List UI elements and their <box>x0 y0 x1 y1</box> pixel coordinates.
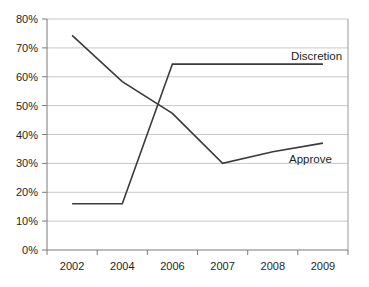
y-axis-label-40: 40% <box>16 129 38 141</box>
x-axis-label-2007: 2007 <box>210 260 234 272</box>
x-axis-label-2004: 2004 <box>110 260 134 272</box>
y-axis-label-50: 50% <box>16 100 38 112</box>
y-axis-label-30: 30% <box>16 157 38 169</box>
x-axis-label-2002: 2002 <box>60 260 84 272</box>
chart-canvas: 80% 70% 60% 50% 40% 30% 20% 10% 0% 2002 … <box>0 0 369 287</box>
x-axis-label-2006: 2006 <box>160 260 184 272</box>
y-axis-label-0: 0% <box>22 244 38 256</box>
series-label-discretion: Discretion <box>291 50 342 62</box>
x-axis-label-2008: 2008 <box>261 260 285 272</box>
y-axis-label-10: 10% <box>16 215 38 227</box>
y-axis-label-60: 60% <box>16 71 38 83</box>
chart-background <box>0 0 369 287</box>
series-label-approve: Approve <box>289 153 332 165</box>
line-chart: 80% 70% 60% 50% 40% 30% 20% 10% 0% 2002 … <box>0 0 369 287</box>
y-axis-label-70: 70% <box>16 42 38 54</box>
y-axis-labels: 80% 70% 60% 50% 40% 30% 20% 10% 0% <box>16 13 38 256</box>
y-axis-label-80: 80% <box>16 13 38 25</box>
x-axis-label-2009: 2009 <box>311 260 335 272</box>
y-axis-label-20: 20% <box>16 186 38 198</box>
